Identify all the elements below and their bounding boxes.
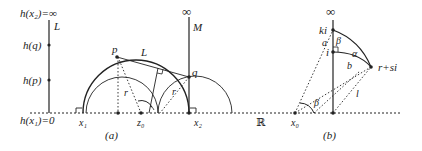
point-hp [47, 78, 50, 81]
label-b: b [347, 60, 352, 71]
label-beta-bottom: β [313, 97, 319, 108]
dotted-foot-point [333, 67, 371, 113]
label-x1: x₁ [78, 117, 87, 128]
label-h-x2: h(x₂)=∞ [20, 7, 57, 20]
panel-b: ∞ ki a i β α b r+si l β x₀ (b) [290, 4, 397, 142]
dotted-parallel [314, 71, 360, 113]
label-hq: h(q) [23, 39, 42, 52]
label-r-si: r+si [378, 61, 397, 73]
label-i: i [326, 46, 329, 58]
caption-a: (a) [105, 129, 118, 142]
point-q [187, 75, 191, 79]
label-l: l [356, 88, 359, 99]
point-p [115, 55, 119, 59]
segment-pq [117, 57, 189, 77]
label-ki: ki [319, 24, 327, 36]
label-alpha: α [352, 48, 358, 59]
angle-arc-beta [300, 103, 314, 113]
point-hq [47, 43, 50, 46]
point-r-si [369, 65, 373, 69]
right-angle-x2 [190, 108, 196, 113]
label-r-left: r [124, 87, 128, 98]
point-z0 [139, 111, 143, 115]
point-x0 [293, 111, 297, 115]
label-p: p [111, 43, 118, 55]
label-beta-top: β [335, 35, 341, 46]
point-ki [331, 28, 335, 32]
label-infinity-a: ∞ [182, 4, 191, 19]
inner-arc-left [86, 77, 158, 113]
label-z0: z₀ [136, 117, 145, 128]
point-foot-b [331, 111, 335, 115]
inner-arc-right [158, 76, 232, 113]
hyperbolic-geometry-diagram: h(x₂)=∞ L h(q) h(p) h(x₁)=0 [0, 0, 422, 151]
angle-arc-small [150, 106, 154, 110]
label-real-axis: ℝ [256, 116, 266, 128]
label-x2: x₂ [193, 117, 202, 128]
label-r-right: r [172, 86, 176, 97]
label-L: L [140, 46, 147, 58]
point-p-foot [116, 111, 120, 115]
angle-arc-z0 [138, 101, 152, 107]
dotted-radius-left [118, 57, 141, 113]
label-h-x1: h(x₁)=0 [20, 114, 55, 127]
label-hp: h(p) [23, 74, 42, 87]
label-x0: x₀ [290, 117, 299, 128]
label-M: M [192, 21, 203, 33]
left-panel: h(x₂)=∞ L h(q) h(p) h(x₁)=0 [20, 7, 60, 127]
right-angle-x1 [76, 108, 82, 113]
point-i [331, 50, 335, 54]
label-infinity-b: ∞ [326, 4, 335, 19]
point-x2 [187, 111, 191, 115]
caption-b: (b) [323, 129, 336, 142]
label-q: q [192, 66, 198, 78]
label-L-left: L [53, 20, 60, 32]
panel-a: ∞ M L p q r r x₁ z₀ x₂ (a) [76, 4, 232, 142]
